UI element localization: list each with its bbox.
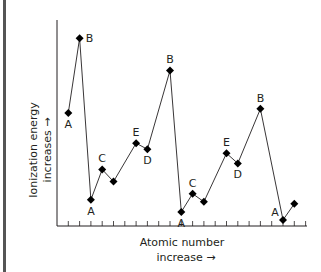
diamond-marker — [87, 196, 95, 204]
point-label: D — [234, 168, 242, 181]
diamond-marker — [189, 190, 197, 198]
point-label: B — [257, 92, 265, 105]
point-label: A — [271, 206, 279, 219]
point-labels: ABACEDBACEDBA — [65, 32, 280, 230]
diamond-marker — [200, 198, 208, 206]
diamond-marker — [290, 200, 298, 208]
point-label: D — [143, 154, 151, 167]
ionization-energy-chart: ABACEDBACEDBA Atomic number increase → I… — [0, 0, 321, 272]
diamond-marker — [166, 66, 174, 74]
diamond-marker — [76, 34, 84, 42]
diamond-marker — [64, 109, 72, 117]
data-markers — [64, 34, 298, 224]
diamond-marker — [177, 208, 185, 216]
diamond-marker — [143, 145, 151, 153]
point-label: A — [65, 118, 73, 131]
point-label: E — [223, 136, 230, 149]
point-label: E — [133, 126, 140, 139]
diamond-marker — [279, 216, 287, 224]
axes — [57, 20, 307, 226]
point-label: B — [166, 53, 174, 66]
diamond-marker — [132, 139, 140, 147]
point-label: B — [86, 32, 94, 45]
point-label: A — [87, 205, 95, 218]
x-axis-label-line2: increase → — [156, 251, 215, 264]
x-axis-label-line1: Atomic number — [140, 236, 225, 249]
diamond-marker — [256, 105, 264, 113]
y-axis-label-line1: Ionization energy — [27, 102, 40, 198]
point-label: C — [189, 177, 197, 190]
x-axis-ticks — [68, 221, 305, 226]
y-axis-label-line2: increases → — [41, 118, 54, 183]
point-label: C — [98, 152, 106, 165]
point-label: A — [178, 217, 186, 230]
data-line — [68, 38, 294, 220]
